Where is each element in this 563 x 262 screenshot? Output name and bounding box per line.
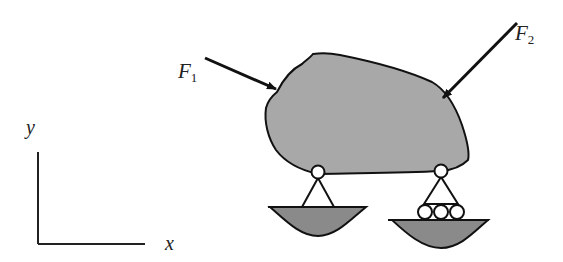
f1-label: F1 — [177, 59, 197, 85]
rigid-body — [265, 53, 468, 174]
pin-triangle-icon — [302, 178, 334, 207]
roller-icon — [450, 205, 464, 219]
free-body-diagram: y x F1 F2 — [0, 0, 563, 262]
coordinate-axes: y x — [24, 116, 174, 254]
ground-icon — [392, 220, 488, 248]
f2-label: F2 — [514, 21, 534, 47]
force-f2: F2 — [443, 21, 534, 98]
pin-joint-icon — [312, 166, 325, 179]
pin-joint-icon — [435, 165, 448, 178]
roller-icon — [434, 205, 448, 219]
roller-icon — [418, 205, 432, 219]
f1-arrow-icon — [205, 58, 276, 89]
force-f1: F1 — [177, 58, 276, 89]
roller-support — [388, 165, 489, 249]
f2-arrow-icon — [443, 23, 517, 98]
x-axis-label: x — [164, 232, 174, 254]
pin-support — [268, 166, 366, 237]
roller-triangle-icon — [424, 177, 458, 204]
y-axis-label: y — [24, 116, 35, 139]
ground-icon — [270, 207, 366, 236]
